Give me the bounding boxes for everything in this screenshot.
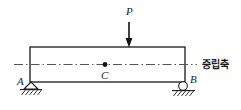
centroid-dot (103, 62, 108, 67)
pin-support-hatching (22, 90, 42, 95)
left-support-label: A (17, 76, 24, 87)
roller-support-circle (179, 82, 188, 91)
load-label: P (126, 6, 133, 17)
load-arrow-head (126, 38, 133, 48)
roller-support-hatching (174, 91, 194, 96)
pin-support-triangle (24, 82, 38, 89)
beam-bending-diagram: P C A B 중립축 (0, 0, 241, 110)
right-support-label: B (190, 74, 197, 85)
neutral-axis-label: 중립축 (202, 60, 229, 70)
centroid-label: C (101, 70, 108, 81)
diagram-canvas (0, 0, 241, 110)
